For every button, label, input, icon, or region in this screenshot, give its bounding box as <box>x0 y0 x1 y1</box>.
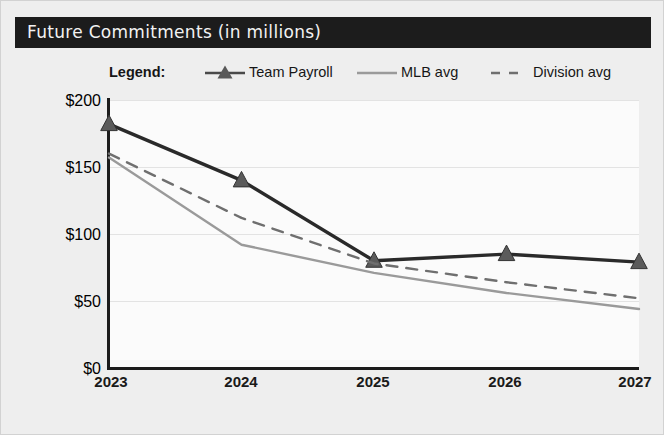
x-axis-tick-label: 2026 <box>488 373 521 390</box>
gridline <box>109 167 639 168</box>
plot-area <box>109 100 639 368</box>
chart-card: Future Commitments (in millions) Legend:… <box>0 0 664 435</box>
x-axis-tick-label: 2025 <box>356 373 389 390</box>
gridline <box>109 100 639 101</box>
gridline <box>109 301 639 302</box>
chart-title-bar: Future Commitments (in millions) <box>15 17 651 48</box>
x-axis-tick-label: 2024 <box>224 373 257 390</box>
y-axis-tick-label: $200 <box>65 92 101 109</box>
y-axis-line <box>107 98 110 370</box>
legend-item-label: Division avg <box>533 64 611 80</box>
y-axis-tick-label: $150 <box>65 159 101 176</box>
line-dashed-swatch-icon <box>489 63 529 83</box>
legend-item-label: MLB avg <box>401 64 458 80</box>
x-axis-tick-label: 2027 <box>618 373 651 390</box>
legend-item-label: Team Payroll <box>249 64 333 80</box>
y-axis-tick-label: $100 <box>65 226 101 243</box>
line-solid-swatch-icon <box>357 63 397 83</box>
gridline <box>109 234 639 235</box>
legend-label: Legend: <box>109 64 165 80</box>
chart-legend: Legend: Team Payroll MLB avg <box>109 63 639 85</box>
x-axis-line <box>107 367 639 370</box>
y-axis-tick: $150 <box>1 159 101 177</box>
y-axis-tick: $200 <box>1 92 101 110</box>
y-axis-tick: $50 <box>1 293 101 311</box>
y-axis-tick-label: $50 <box>74 293 101 310</box>
y-axis-tick: $100 <box>1 226 101 244</box>
page-title: Future Commitments (in millions) <box>27 22 321 42</box>
y-axis-tick: $0 <box>1 360 101 378</box>
line-marker-swatch-icon <box>205 63 245 83</box>
x-axis-tick-label: 2023 <box>94 373 127 390</box>
